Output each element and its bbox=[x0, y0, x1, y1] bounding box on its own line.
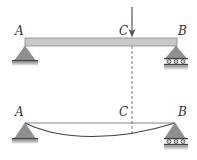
beam bbox=[25, 38, 177, 46]
deflected-beam-curve bbox=[25, 123, 175, 137]
top-panel: A C B bbox=[12, 7, 188, 134]
roller-support-b-icon bbox=[164, 123, 188, 150]
label-b-bottom: B bbox=[177, 105, 187, 119]
label-c-top: C bbox=[119, 24, 128, 38]
roller-support-b-icon bbox=[164, 46, 188, 70]
pin-support-a-icon bbox=[12, 46, 38, 66]
pin-support-a-icon bbox=[12, 123, 38, 144]
bottom-panel: A C B bbox=[12, 105, 188, 150]
load-arrow-icon bbox=[129, 7, 136, 38]
label-a-bottom: A bbox=[14, 105, 24, 119]
label-c-bottom: C bbox=[119, 105, 128, 119]
label-a-top: A bbox=[14, 24, 24, 38]
label-b-top: B bbox=[177, 24, 187, 38]
beam-diagram: A C B A C B bbox=[0, 0, 197, 160]
